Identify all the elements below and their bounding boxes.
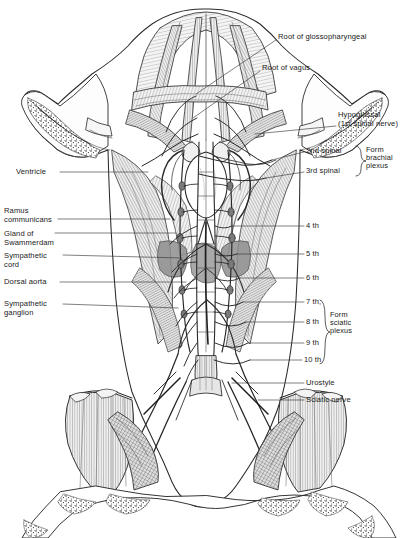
brace-form-brachial-plexus — [356, 146, 366, 176]
label-ventricle: Ventricle — [16, 168, 46, 177]
figure-page: VentricleRamus communicansGland of Swamm… — [0, 0, 412, 538]
label-form-brachial-plexus: Form brachial plexus — [366, 146, 393, 171]
label-3rd-spinal: 3rd spinal — [306, 167, 340, 176]
label-root-of-vagus: Root of vagus — [262, 64, 310, 73]
frog-dissection-illustration — [0, 0, 412, 538]
label-sciatic-nerve: Sciatic nerve — [306, 396, 351, 405]
label-gland-of-swammerdam: Gland of Swammerdam — [4, 230, 54, 247]
label-form-sciatic-plexus: Form sciatic plexus — [330, 311, 352, 336]
label-6th: 6 th — [306, 274, 319, 283]
label-9th: 9 th — [306, 339, 319, 348]
label-10th: 10 th — [304, 356, 321, 365]
label-urostyle: Urostyle — [306, 379, 335, 388]
label-5th: 5 th — [306, 250, 319, 259]
label-7th: 7 th, — [306, 298, 321, 307]
label-sympathetic-ganglion: Sympathetic ganglion — [4, 300, 47, 317]
label-4th: 4 th — [306, 222, 319, 231]
label-sympathetic-cord: Sympathetic cord — [4, 252, 47, 269]
left-forelimb — [22, 74, 113, 158]
label-ramus-communicans: Ramus communicans — [4, 207, 52, 224]
label-8th: 8 th — [306, 318, 319, 327]
label-2nd-spinal: 2nd spinal — [306, 147, 342, 156]
label-hypoglossal: Hypoglossal (1st spinal nerve) — [338, 111, 398, 128]
label-dorsal-aorta: Dorsal aorta — [4, 278, 47, 287]
label-root-of-glossopharyngeal: Root of glossopharyngeal — [278, 33, 367, 42]
brace-form-sciatic-plexus — [320, 300, 330, 364]
